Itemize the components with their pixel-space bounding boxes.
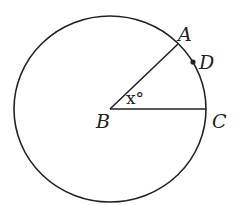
angle-label: x° — [126, 88, 144, 108]
label-C: C — [212, 110, 227, 132]
label-B: B — [95, 110, 110, 132]
point-D-marker — [190, 59, 195, 64]
geometry-diagram: A D B C x° — [0, 0, 247, 205]
label-D: D — [198, 51, 214, 73]
label-A: A — [176, 23, 192, 45]
